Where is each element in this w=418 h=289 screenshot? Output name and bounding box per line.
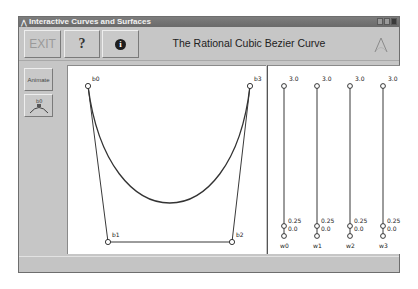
close-button[interactable] (391, 18, 397, 25)
svg-text:0.0: 0.0 (354, 225, 364, 232)
svg-text:3.0: 3.0 (388, 75, 398, 82)
window-title: Interactive Curves and Surfaces (29, 17, 151, 27)
curve-logo-icon (373, 36, 389, 54)
app-icon: ⋀ (21, 19, 27, 26)
svg-text:0.25: 0.25 (321, 217, 335, 224)
sidebar: Animate b0 (19, 62, 63, 257)
title-bar[interactable]: ⋀ Interactive Curves and Surfaces (19, 17, 399, 27)
svg-text:b3: b3 (254, 75, 262, 82)
window-controls (377, 18, 397, 25)
maximize-button[interactable] (384, 18, 390, 25)
weights-panel: 3.0 0.25 0.0 w0 3.0 0.25 0.0 w1 3.0 (267, 65, 400, 254)
control-point-b3[interactable]: b3 (247, 75, 261, 89)
bezier-curve (88, 86, 250, 203)
status-bar (19, 256, 399, 272)
svg-text:b1: b1 (112, 231, 120, 238)
minimize-button[interactable] (377, 18, 383, 25)
svg-text:b0: b0 (36, 98, 42, 104)
app-window: ⋀ Interactive Curves and Surfaces EXIT ?… (18, 16, 400, 273)
svg-text:w3: w3 (379, 242, 388, 249)
svg-text:0.25: 0.25 (288, 217, 302, 224)
curve-canvas[interactable]: b0 b1 b2 b3 (67, 65, 266, 254)
exit-button[interactable]: EXIT (24, 30, 61, 58)
page-title: The Rational Cubic Bezier Curve (149, 37, 349, 49)
bezier-curve-icon: b0 (28, 97, 50, 115)
toolbar: EXIT ? i The Rational Cubic Bezier Curve (19, 27, 399, 61)
help-button[interactable]: ? (64, 30, 100, 58)
svg-text:b0: b0 (92, 75, 100, 82)
svg-text:0.0: 0.0 (321, 225, 331, 232)
weight-slider-w1[interactable]: 3.0 0.25 0.0 w1 (313, 75, 335, 249)
svg-text:w0: w0 (280, 242, 289, 249)
curve-plot[interactable]: b0 b1 b2 b3 (68, 66, 267, 255)
svg-text:0.0: 0.0 (288, 225, 298, 232)
weight-sliders: 3.0 0.25 0.0 w0 3.0 0.25 0.0 w1 3.0 (268, 66, 401, 255)
svg-text:0.25: 0.25 (387, 217, 401, 224)
svg-text:0.25: 0.25 (354, 217, 368, 224)
control-point-b0[interactable]: b0 (85, 75, 99, 89)
info-button[interactable]: i (102, 30, 139, 58)
curve-type-button[interactable]: b0 (24, 94, 53, 117)
animate-button[interactable]: Animate (24, 68, 53, 91)
svg-text:3.0: 3.0 (322, 75, 332, 82)
info-icon: i (115, 39, 126, 50)
svg-text:w2: w2 (346, 242, 355, 249)
svg-text:3.0: 3.0 (355, 75, 365, 82)
control-point-b2[interactable]: b2 (229, 231, 243, 245)
weight-slider-w0[interactable]: 3.0 0.25 0.0 w0 (280, 75, 302, 249)
svg-text:0.0: 0.0 (387, 225, 397, 232)
weight-slider-w2[interactable]: 3.0 0.25 0.0 w2 (346, 75, 368, 249)
svg-text:b2: b2 (236, 231, 244, 238)
svg-text:w1: w1 (313, 242, 322, 249)
weight-slider-w3[interactable]: 3.0 0.25 0.0 w3 (379, 75, 401, 249)
svg-text:3.0: 3.0 (289, 75, 299, 82)
